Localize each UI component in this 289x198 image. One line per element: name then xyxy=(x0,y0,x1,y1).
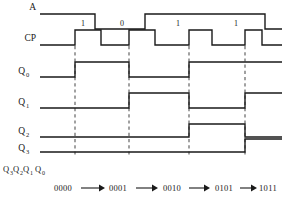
state-header-q0-base: Q xyxy=(35,164,41,174)
signal-label-q3-subscript: 3 xyxy=(26,148,29,155)
signal-label-q3: Q 3 xyxy=(18,143,29,155)
state-transition-arrow-1 xyxy=(81,185,105,192)
waveform-q0 xyxy=(40,62,282,77)
state-word-header: Q 3 Q 2 Q 1 Q 0 xyxy=(3,164,45,176)
timing-diagram-figure: A CP Q 0 Q 1 Q 2 Q 3 xyxy=(0,0,289,198)
svg-text:Q: Q xyxy=(18,66,25,76)
state-word-4: 1011 xyxy=(259,183,277,193)
a-bit-label-2: 0 xyxy=(120,19,124,28)
state-word-0: 0000 xyxy=(54,183,72,193)
state-transition-arrow-3 xyxy=(189,185,210,192)
waveform-q2 xyxy=(40,124,282,137)
state-header-q0-sub: 0 xyxy=(42,170,45,176)
svg-text:Q: Q xyxy=(18,97,25,107)
waveform-q3 xyxy=(40,139,282,152)
state-word-2: 0010 xyxy=(163,183,181,193)
a-bit-label-1: 1 xyxy=(81,19,85,28)
state-word-1: 0001 xyxy=(109,183,127,193)
signal-label-q2: Q 2 xyxy=(18,126,29,138)
signal-label-q0: Q 0 xyxy=(18,66,29,78)
signal-label-q1-subscript: 1 xyxy=(26,102,29,109)
state-header-q3-base: Q xyxy=(3,164,9,174)
timing-diagram-canvas: A CP Q 0 Q 1 Q 2 Q 3 xyxy=(0,0,289,198)
state-transition-arrow-4 xyxy=(240,185,257,192)
state-header-q1-base: Q xyxy=(23,164,29,174)
waveform-a xyxy=(40,14,282,29)
state-word-3: 0101 xyxy=(215,183,233,193)
a-bit-value-labels: 1 0 1 1 xyxy=(81,19,238,28)
signal-label-q2-subscript: 2 xyxy=(26,131,29,138)
svg-text:Q: Q xyxy=(18,126,25,136)
waveform-cp xyxy=(40,30,282,45)
svg-text:Q: Q xyxy=(18,143,25,153)
state-transition-arrow-2 xyxy=(136,185,158,192)
a-bit-label-4: 1 xyxy=(234,19,238,28)
signal-label-cp: CP xyxy=(24,33,36,43)
state-header-q2-base: Q xyxy=(13,164,19,174)
signal-label-column: A CP Q 0 Q 1 Q 2 Q 3 xyxy=(18,2,36,155)
state-sequence-row: 0000 0001 0010 0101 1011 xyxy=(54,183,277,193)
a-bit-label-3: 1 xyxy=(176,19,180,28)
signal-label-q1: Q 1 xyxy=(18,97,29,109)
signal-label-q0-subscript: 0 xyxy=(26,71,29,78)
waveform-q1 xyxy=(40,93,282,108)
state-header-q1-sub: 1 xyxy=(30,170,33,176)
signal-label-a: A xyxy=(29,2,36,12)
